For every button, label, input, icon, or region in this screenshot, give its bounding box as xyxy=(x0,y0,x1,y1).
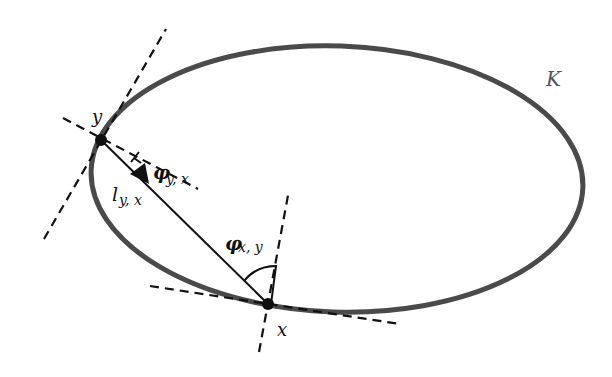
point-y xyxy=(95,134,107,146)
point-x xyxy=(262,298,274,310)
tangent-line-at-x xyxy=(150,286,400,324)
point-label-y: y xyxy=(91,106,103,127)
segment-label-l-sub: y, x xyxy=(118,192,142,208)
tangent-line-at-y xyxy=(44,29,166,239)
direction-arrow-icon xyxy=(130,163,149,184)
convex-body-diagram: K y x φ y, x l y, x φ x, y xyxy=(0,0,612,377)
segment-label-l-main: l xyxy=(112,183,118,205)
angle-label-phi-xy-sub: x, y xyxy=(238,239,264,255)
curve-label-K: K xyxy=(545,67,562,91)
angle-label-phi-yx-sub: y, x xyxy=(165,171,189,187)
point-label-x: x xyxy=(277,319,287,340)
